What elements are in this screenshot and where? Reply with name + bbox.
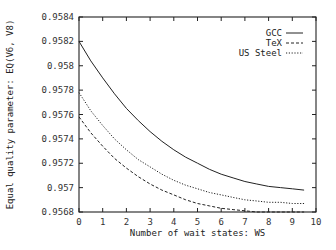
y-axis-label: Equal quality parameter: EQ(V6, V8) — [5, 20, 15, 210]
x-tick-label: 3 — [147, 217, 152, 227]
y-tick-label: 0.9584 — [41, 12, 74, 22]
x-tick-label: 1 — [100, 217, 105, 227]
legend-label: GCC — [266, 28, 282, 38]
x-tick-label: 4 — [171, 217, 176, 227]
x-tick-label: 7 — [242, 217, 247, 227]
x-tick-label: 6 — [218, 217, 223, 227]
x-tick-label: 10 — [311, 217, 322, 227]
y-tick-label: 0.9578 — [41, 85, 74, 95]
x-tick-label: 8 — [266, 217, 271, 227]
line-chart: 0123456789100.95680.9570.95720.95740.957… — [0, 0, 336, 250]
y-tick-label: 0.9572 — [41, 158, 74, 168]
y-tick-label: 0.9568 — [41, 207, 74, 217]
series-line-tex — [79, 117, 304, 212]
y-tick-label: 0.9582 — [41, 36, 74, 46]
y-tick-label: 0.9576 — [41, 110, 74, 120]
x-tick-label: 9 — [290, 217, 295, 227]
y-tick-label: 0.9574 — [41, 134, 74, 144]
y-tick-label: 0.958 — [47, 61, 74, 71]
x-tick-label: 5 — [195, 217, 200, 227]
x-tick-label: 2 — [124, 217, 129, 227]
series-line-gcc — [79, 41, 304, 190]
x-axis-label: Number of wait states: WS — [130, 228, 265, 238]
legend-label: US Steel — [239, 48, 282, 58]
y-tick-label: 0.957 — [47, 183, 74, 193]
legend-label: TeX — [266, 38, 283, 48]
x-tick-label: 0 — [76, 217, 81, 227]
